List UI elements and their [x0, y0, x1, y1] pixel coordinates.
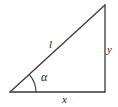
- vertical-leg-label: y: [107, 44, 112, 55]
- angle-arc-icon: [30, 75, 36, 92]
- hypotenuse-label: l: [49, 39, 52, 50]
- angle-label: α: [41, 71, 47, 83]
- right-triangle-graphic: [0, 0, 118, 107]
- figure-canvas: l y x α: [0, 0, 118, 107]
- triangle-side-hypotenuse: [10, 5, 105, 92]
- horizontal-leg-label: x: [62, 94, 67, 105]
